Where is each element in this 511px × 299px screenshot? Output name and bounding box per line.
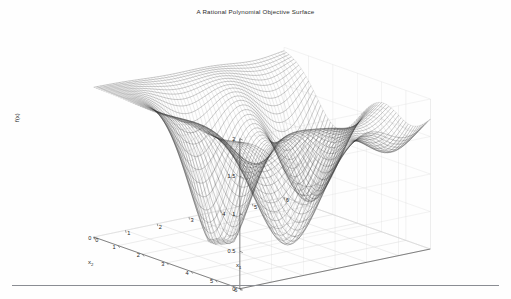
- surface-plot-canvas: 00.511.5201234560123456: [0, 0, 511, 299]
- x2-axis-label: x2: [88, 259, 93, 267]
- svg-text:3: 3: [161, 261, 164, 267]
- figure-page: A Rational Polynomial Objective Surface …: [0, 0, 511, 299]
- svg-text:6: 6: [286, 197, 289, 203]
- svg-text:5: 5: [254, 204, 257, 210]
- svg-text:0: 0: [88, 235, 91, 241]
- surface-mesh: [94, 51, 431, 245]
- svg-text:1: 1: [127, 230, 130, 236]
- svg-text:4: 4: [186, 270, 189, 276]
- footer-rule: [12, 285, 499, 286]
- svg-text:0: 0: [95, 237, 98, 243]
- svg-text:1.5: 1.5: [228, 173, 236, 179]
- svg-text:2: 2: [137, 252, 140, 258]
- z-axis-label: f(x): [14, 113, 20, 122]
- svg-text:1: 1: [232, 211, 235, 217]
- svg-text:1: 1: [113, 244, 116, 250]
- svg-text:5: 5: [210, 278, 213, 284]
- svg-text:2: 2: [159, 224, 162, 230]
- svg-text:3: 3: [191, 217, 194, 223]
- svg-text:2: 2: [232, 136, 235, 142]
- svg-text:0.5: 0.5: [228, 248, 236, 254]
- x1-axis-label: x1: [236, 262, 241, 270]
- svg-text:6: 6: [234, 287, 237, 293]
- svg-text:4: 4: [222, 211, 225, 217]
